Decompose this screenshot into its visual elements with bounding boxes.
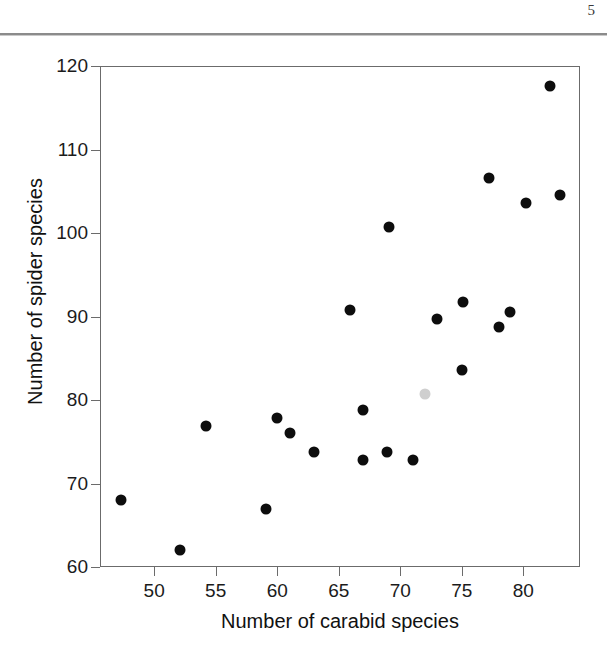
x-axis-tick-label: 60 (267, 580, 288, 602)
data-point (483, 172, 494, 183)
y-axis-tick (91, 567, 100, 568)
page-canvas: 5 60708090100110120 50556065707580 Numbe… (0, 0, 607, 668)
data-point (309, 446, 320, 457)
data-point (493, 322, 504, 333)
x-axis-tick-label: 75 (451, 580, 472, 602)
y-axis-tick-label: 90 (67, 306, 88, 328)
page-number: 5 (588, 2, 596, 19)
x-axis-tick (523, 567, 524, 576)
data-point (344, 304, 355, 315)
x-axis-tick (339, 567, 340, 576)
y-axis-tick-label: 70 (67, 473, 88, 495)
data-point (284, 428, 295, 439)
y-axis-tick (91, 233, 100, 234)
y-axis-tick-label: 100 (56, 222, 88, 244)
data-point (504, 307, 515, 318)
x-axis-tick-label: 65 (328, 580, 349, 602)
header-divider (0, 33, 607, 35)
y-axis-tick (91, 66, 100, 67)
scatter-plot-figure: 60708090100110120 50556065707580 Number … (0, 40, 607, 668)
y-axis-tick-label: 110 (58, 139, 88, 161)
x-axis-tick-label: 80 (513, 580, 534, 602)
y-axis-tick (91, 484, 100, 485)
x-axis-tick (277, 567, 278, 576)
x-axis-tick (462, 567, 463, 576)
x-axis-tick-label: 55 (205, 580, 226, 602)
y-axis-tick (91, 400, 100, 401)
x-axis-tick (154, 567, 155, 576)
data-point (407, 455, 418, 466)
x-axis-tick-label: 70 (390, 580, 411, 602)
data-point (358, 405, 369, 416)
plot-data-area (100, 66, 580, 567)
data-point (384, 222, 395, 233)
x-axis-tick (216, 567, 217, 576)
data-point (555, 189, 566, 200)
y-axis-tick-label: 60 (67, 556, 88, 578)
x-axis-tick-label: 50 (144, 580, 165, 602)
y-axis-tick (91, 317, 100, 318)
x-axis-label: Number of carabid species (100, 610, 580, 633)
x-axis-tick (400, 567, 401, 576)
y-axis: 60708090100110120 (0, 66, 100, 567)
y-axis-tick-label: 80 (67, 389, 88, 411)
data-point (458, 297, 469, 308)
data-point (175, 545, 186, 556)
data-point (272, 412, 283, 423)
data-point (432, 314, 443, 325)
y-axis-tick-label: 120 (56, 55, 88, 77)
data-point (115, 495, 126, 506)
data-point (456, 364, 467, 375)
data-point (261, 503, 272, 514)
data-point (200, 420, 211, 431)
data-point (520, 197, 531, 208)
y-axis-label: Number of spider species (24, 112, 47, 472)
y-axis-tick (91, 150, 100, 151)
data-point (358, 455, 369, 466)
data-point (419, 389, 430, 400)
x-axis: 50556065707580 (100, 567, 580, 607)
data-point (545, 81, 556, 92)
data-point (381, 446, 392, 457)
